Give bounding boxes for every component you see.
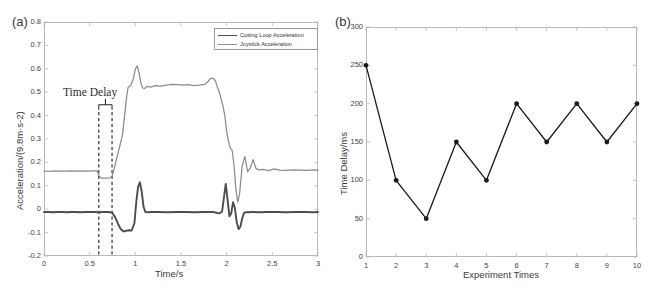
- panel-b-x-axis-title: Experiment Times: [463, 269, 539, 280]
- panel-a-y-tick-label: 0.5: [17, 88, 41, 96]
- panel-b-y-axis-title: Time Delay/ms: [338, 132, 349, 195]
- panel-a-x-tick-label: 0: [30, 260, 58, 268]
- data-point-marker: [514, 101, 519, 106]
- figure-container: (a) 0.80.70.60.50.40.30.20.10-0.1-0.2 00…: [0, 0, 659, 292]
- data-point-marker: [364, 63, 369, 68]
- panel-b-canvas: [330, 0, 659, 292]
- data-point-marker: [394, 178, 399, 183]
- panel-a-y-tick-label: 0.8: [17, 18, 41, 26]
- panel-a-x-tick-label: 2: [213, 260, 241, 268]
- legend-item-cutting-loop: Cutting Loop Acceleration: [218, 31, 314, 40]
- time-delay-annotation: Time Delay: [63, 86, 117, 98]
- series-time-delay: [366, 65, 637, 218]
- panel-b-x-tick-label: 10: [623, 262, 651, 270]
- legend-item-joystick: Joystick Acceleration: [218, 40, 314, 49]
- panel-a-x-tick-label: 0.5: [76, 260, 104, 268]
- legend-label-joystick: Joystick Acceleration: [240, 42, 292, 48]
- time-delay-brace: [99, 105, 112, 110]
- panel-b-x-tick-label: 8: [563, 262, 591, 270]
- panel-b-x-tick-label: 3: [412, 262, 440, 270]
- panel-b: (b) 300250200150100500 12345678910 Exper…: [330, 0, 659, 292]
- data-point-marker: [635, 101, 640, 106]
- panel-a: (a) 0.80.70.60.50.40.30.20.10-0.1-0.2 00…: [0, 0, 330, 292]
- panel-a-y-tick-label: 0.7: [17, 41, 41, 49]
- legend-swatch-joystick: [218, 44, 237, 45]
- panel-b-x-tick-label: 1: [352, 262, 380, 270]
- panel-b-y-tick-label: 300: [340, 23, 363, 31]
- panel-a-legend: Cutting Loop Acceleration Joystick Accel…: [214, 28, 318, 50]
- panel-a-y-tick-label: -0.1: [17, 229, 41, 237]
- panel-b-x-tick-label: 9: [593, 262, 621, 270]
- panel-a-y-axis-title: Acceleration/(9.8m·s-2): [14, 111, 25, 210]
- data-point-marker: [454, 140, 459, 145]
- data-point-marker: [424, 216, 429, 221]
- panel-a-x-tick-label: 1: [121, 260, 149, 268]
- panel-a-x-axis-title: Time/s: [155, 268, 183, 279]
- panel-a-x-tick-label: 1.5: [167, 260, 195, 268]
- panel-a-x-tick-label: 3: [304, 260, 332, 268]
- panel-b-y-tick-label: 250: [340, 61, 363, 69]
- panel-a-x-tick-label: 2.5: [258, 260, 286, 268]
- panel-a-y-tick-label: -0.2: [17, 252, 41, 260]
- series-cutting-loop: [44, 182, 318, 231]
- panel-b-y-tick-label: 0: [340, 253, 363, 261]
- panel-b-y-tick-label: 200: [340, 100, 363, 108]
- data-point-marker: [544, 140, 549, 145]
- legend-label-cutting-loop: Cutting Loop Acceleration: [240, 33, 304, 39]
- legend-swatch-cutting-loop: [218, 35, 237, 36]
- panel-b-y-tick-label: 50: [340, 215, 363, 223]
- panel-b-x-tick-label: 2: [382, 262, 410, 270]
- panel-a-y-tick-label: 0.6: [17, 65, 41, 73]
- data-point-marker: [574, 101, 579, 106]
- data-point-marker: [604, 140, 609, 145]
- data-point-marker: [484, 178, 489, 183]
